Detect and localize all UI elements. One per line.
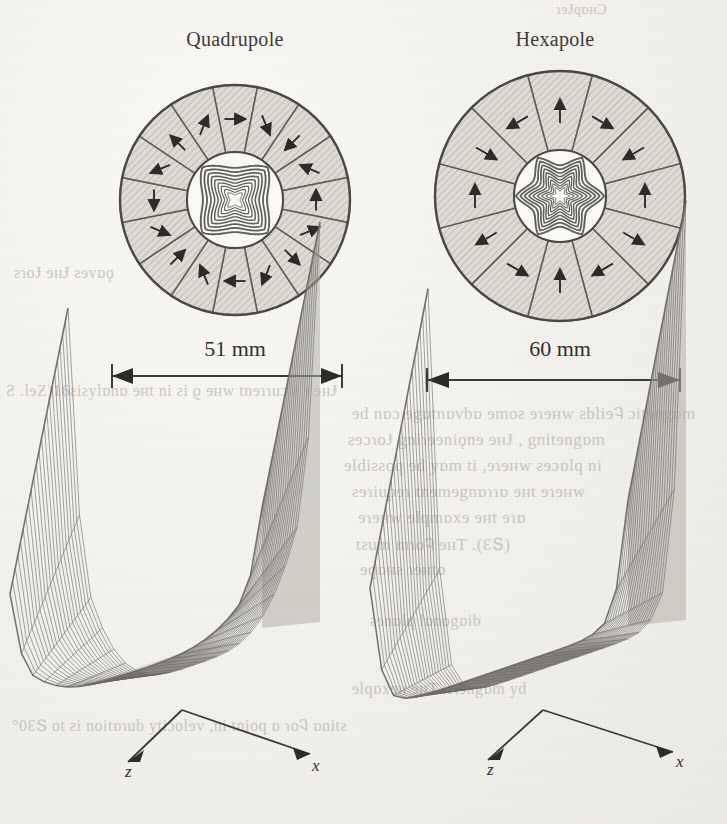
- scanned-page: ɘd nɒɔ ɘgɒtnɒvbɒ ɘmoƨ ɘɿɘʜw ƨbliɘᎸ ɔitɘn…: [0, 0, 727, 824]
- bleed-text: ƨɿoɈ ɘʜɈ ƨɘvɒǫ: [14, 264, 114, 282]
- hexapole-surface-plot: [368, 402, 727, 792]
- axis-label-z-quadrupole: z: [125, 762, 132, 782]
- quadrupole-surface-plot: [10, 410, 370, 800]
- axis-arrows-hexapole: [488, 710, 673, 760]
- dimension-arrow-quadrupole: [100, 362, 360, 392]
- axis-label-z-hexapole: z: [487, 760, 494, 780]
- panel-title-hexapole: Hexapole: [455, 28, 655, 51]
- quadrupole-cross-section: [105, 75, 365, 325]
- panel-title-quadrupole: Quadrupole: [125, 28, 345, 51]
- axis-arrows-quadrupole: [128, 710, 310, 762]
- hexapole-cross-section: [425, 68, 695, 328]
- axis-label-x-quadrupole: x: [312, 756, 320, 776]
- bleed-text: ɿɘɈqɒʜƆ: [556, 2, 607, 18]
- axis-label-x-hexapole: x: [676, 752, 684, 772]
- dimension-label-hexapole: 60 mm: [465, 336, 655, 362]
